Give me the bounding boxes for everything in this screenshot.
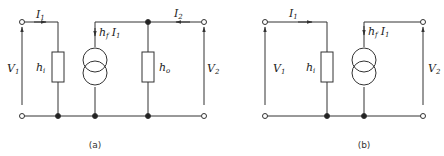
label-v1: V1 xyxy=(7,62,19,76)
caption-b: (b) xyxy=(358,140,371,150)
current-source-circle xyxy=(352,48,376,72)
label-v2: V2 xyxy=(428,62,441,76)
label-v1: V1 xyxy=(273,62,285,76)
node xyxy=(93,114,98,119)
resistor-hi xyxy=(321,52,333,82)
diagram-b-labels: I1 hfI1 V1 hi V2 (b) xyxy=(273,7,441,150)
label-i1: I1 xyxy=(288,7,298,21)
terminal xyxy=(263,20,268,25)
label-i1: I1 xyxy=(35,8,45,22)
node xyxy=(362,114,367,119)
current-source-circle xyxy=(83,61,107,85)
node xyxy=(146,20,151,25)
label-hi: hi xyxy=(306,61,315,75)
label-source: hfI1 xyxy=(99,26,121,40)
resistor-ho xyxy=(142,52,154,82)
label-v2: V2 xyxy=(207,62,220,76)
node xyxy=(56,114,61,119)
label-source: hfI1 xyxy=(368,25,390,39)
terminal xyxy=(20,20,25,25)
terminal xyxy=(421,20,426,25)
terminal xyxy=(263,114,268,119)
caption-a: (a) xyxy=(89,140,102,150)
terminal xyxy=(421,114,426,119)
terminal xyxy=(20,114,25,119)
label-ho: ho xyxy=(159,61,170,75)
terminal xyxy=(202,20,207,25)
current-source-circle xyxy=(83,48,107,72)
terminal xyxy=(202,114,207,119)
circuit-diagrams: I1 I2 hfI1 V1 hi ho V2 (a) I1 hfI1 V1 hi xyxy=(0,0,444,156)
diagram-a-labels: I1 I2 hfI1 V1 hi ho V2 (a) xyxy=(7,7,220,150)
node xyxy=(146,114,151,119)
current-source-circle xyxy=(352,61,376,85)
label-hi: hi xyxy=(36,61,45,75)
diagram-b xyxy=(263,20,426,119)
label-i2: I2 xyxy=(173,7,183,21)
resistor-hi xyxy=(52,52,64,82)
node xyxy=(325,114,330,119)
